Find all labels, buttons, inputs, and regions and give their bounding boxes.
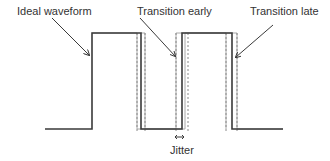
early-trace: [92, 33, 226, 129]
jitter-label: Jitter: [170, 145, 194, 156]
transition-early-label: Transition early: [137, 6, 212, 17]
transition-late-label: Transition late: [250, 6, 319, 17]
jitter-diagram: [0, 0, 330, 161]
dashed-transition-lines: [137, 33, 237, 131]
late-trace: [141, 33, 283, 129]
ideal-waveform-label: Ideal waveform: [17, 6, 92, 17]
late-arrow: [236, 25, 273, 57]
ideal-arrow: [52, 18, 89, 55]
jitter-double-arrow-icon: [175, 135, 184, 139]
